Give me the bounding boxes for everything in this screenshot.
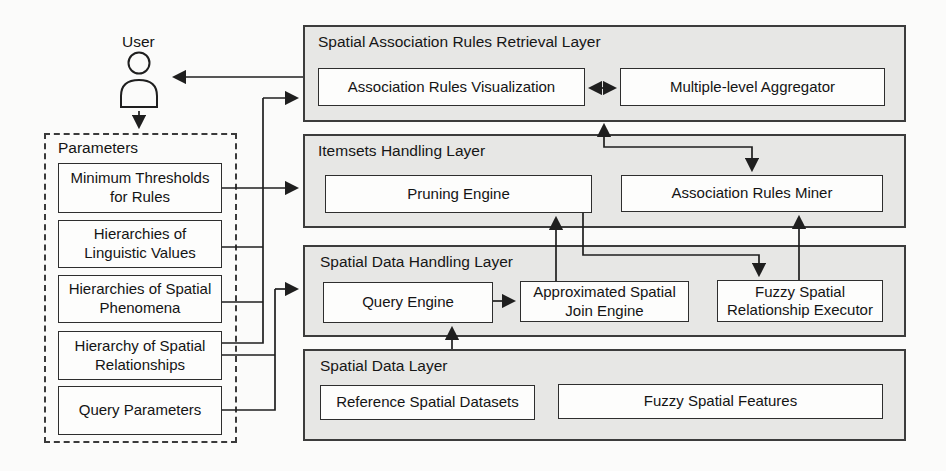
architecture-diagram: Spatial Association Rules Retrieval Laye…	[0, 0, 946, 471]
layer-spatial-data-title: Spatial Data Layer	[320, 357, 448, 375]
box-pruning-engine: Pruning Engine	[325, 175, 592, 213]
param-minimum-thresholds: Minimum Thresholds for Rules	[58, 163, 222, 213]
param-hierarchies-spatial-phenomena: Hierarchies of Spatial Phenomena	[58, 275, 222, 323]
box-fuzzy-spatial-relationship-executor: Fuzzy Spatial Relationship Executor	[717, 280, 883, 322]
box-query-engine: Query Engine	[323, 282, 493, 323]
user-label: User	[122, 33, 155, 51]
box-association-rules-visualization: Association Rules Visualization	[318, 68, 585, 106]
param-hierarchies-linguistic-values: Hierarchies of Linguistic Values	[58, 220, 222, 268]
box-reference-spatial-datasets: Reference Spatial Datasets	[320, 385, 535, 420]
parameters-title: Parameters	[58, 139, 138, 157]
param-query-parameters: Query Parameters	[58, 386, 222, 435]
user-icon	[121, 53, 157, 108]
box-multiple-level-aggregator: Multiple-level Aggregator	[620, 68, 885, 106]
param-hierarchy-spatial-relationships: Hierarchy of Spatial Relationships	[58, 331, 222, 380]
box-association-rules-miner: Association Rules Miner	[621, 175, 883, 212]
layer-retrieval-title: Spatial Association Rules Retrieval Laye…	[318, 33, 601, 51]
layer-spatial-data-handling-title: Spatial Data Handling Layer	[320, 253, 513, 271]
box-fuzzy-spatial-features: Fuzzy Spatial Features	[558, 384, 883, 419]
layer-itemsets-title: Itemsets Handling Layer	[318, 142, 485, 160]
box-approximated-spatial-join-engine: Approximated Spatial Join Engine	[520, 281, 689, 322]
